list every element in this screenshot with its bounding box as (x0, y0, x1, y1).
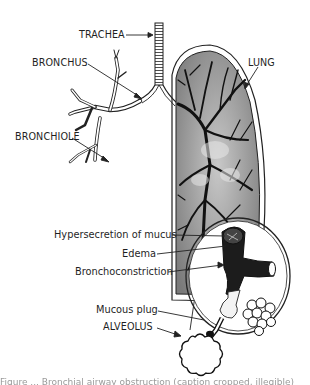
label-bronchus: BRONCHUS (32, 58, 88, 68)
label-trachea: TRACHEA (79, 30, 125, 40)
label-edema: Edema (122, 249, 156, 259)
figure-caption: Figure ... Bronchial airway obstruction … (0, 377, 310, 385)
label-bronchoconstriction: Bronchoconstriction (75, 267, 173, 277)
label-hypersecretion-of-mucus: Hypersecretion of mucus (54, 230, 177, 240)
label-mucous-plug: Mucous plug (96, 305, 158, 315)
label-bronchiole: BRONCHIOLE (15, 132, 80, 142)
label-lung: LUNG (248, 58, 275, 68)
label-alveolus: ALVEOLUS (103, 322, 153, 332)
alveolus-shape (180, 334, 223, 376)
